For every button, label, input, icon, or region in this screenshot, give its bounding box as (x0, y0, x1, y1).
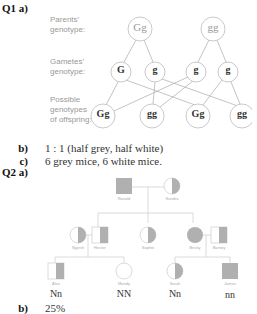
gamete-genotype: G (106, 64, 136, 75)
q1b-label: b) (8, 142, 28, 154)
pedigree-name: Alex (41, 281, 71, 286)
pedigree-name: Sarah (160, 281, 190, 286)
q2b-label: b) (8, 302, 28, 314)
gamete-genotype: g (213, 64, 243, 75)
pedigree-name: Mandy (109, 281, 139, 286)
parent-genotype: Gg (125, 21, 155, 33)
offspring-genotype: Gg (183, 108, 213, 119)
pedigree-name: James (215, 281, 245, 286)
child-genotype: Nn (41, 288, 71, 299)
ronald-symbol (116, 178, 132, 194)
pedigree-name: Barney (204, 245, 234, 250)
q2b-answer: 25% (45, 302, 65, 314)
offspring-genotype: gg (227, 108, 257, 119)
child-genotype: Nn (160, 288, 190, 299)
pedigree-name: Sophie (133, 245, 163, 250)
pedigree-name: Sandra (157, 196, 187, 201)
pedigree-name: Ronald (109, 196, 139, 201)
q1b-answer: 1 : 1 (half grey, half white) (45, 142, 163, 154)
pedigree-chart (0, 175, 252, 280)
gamete-genotype: g (140, 64, 170, 75)
offspring-genotype: gg (137, 108, 167, 119)
q1c-answer: 6 grey mice, 6 white mice. (45, 155, 162, 167)
child-genotype: NN (109, 288, 139, 299)
parent-genotype: gg (198, 21, 228, 33)
gamete-genotype: g (181, 64, 211, 75)
offspring-genotype: Gg (88, 108, 118, 119)
pedigree-name: Hector (85, 245, 115, 250)
child-genotype: nn (215, 289, 245, 300)
